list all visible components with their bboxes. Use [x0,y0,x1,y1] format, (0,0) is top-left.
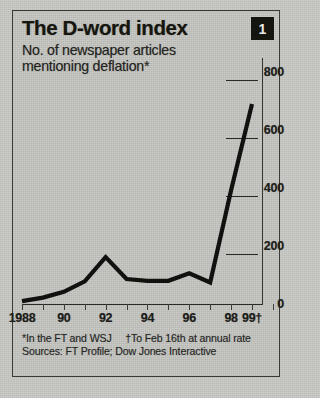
footnote-sources: Sources: FT Profile; Dow Jones Interacti… [22,345,274,358]
series-line [22,104,252,301]
footnote-asterisk: *In the FT and WSJ [22,332,112,344]
footnote-row-1: *In the FT and WSJ †To Feb 16th at annua… [22,332,274,345]
footnote-dagger: †To Feb 16th at annual rate [125,332,251,344]
chart-footnotes: *In the FT and WSJ †To Feb 16th at annua… [22,332,274,358]
